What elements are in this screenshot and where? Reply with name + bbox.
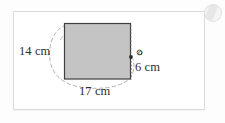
circular-watermark-icon — [204, 4, 222, 22]
dimension-label-left: 14 cm — [19, 45, 50, 58]
dimension-label-right: 6 cm — [135, 61, 160, 74]
dimension-label-bottom: 17 cm — [79, 85, 110, 98]
screenshot-root: 14 cm 6 cm 17 cm o — [0, 0, 225, 123]
vertex-label: o — [138, 48, 143, 57]
